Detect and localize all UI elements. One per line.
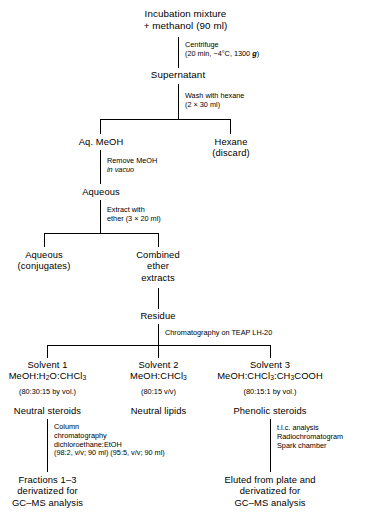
- solvent-1-formula-sub2: 3: [82, 375, 86, 382]
- node-fractions-derivatized: Fractions 1–3 derivatized for GC–MS anal…: [0, 474, 95, 508]
- split-drop-solvent-1: [47, 345, 48, 358]
- solvent-2-formula-pre: MeOH:CHCl: [130, 370, 183, 381]
- solvent-3-formula-post: COOH: [294, 370, 323, 381]
- node-incubation-mixture: Incubation mixture + methanol (90 ml): [0, 8, 371, 32]
- node-solvent-3-ratio-text: (80:15:1 by vol.): [244, 387, 297, 396]
- annotation-chromatography-teap: Chromatography on TEAP LH-20: [165, 329, 272, 338]
- annotation-tlc-line3: Spark chamber: [277, 442, 343, 451]
- node-phenolic-steroids: Phenolic steroids: [190, 405, 350, 416]
- node-solvent-1-name: Solvent 1: [0, 359, 95, 370]
- solvent-1-formula-pre: MeOH:H: [9, 370, 46, 381]
- annotation-centrifuge: Centrifuge (20 min, −4°C, 1300 g): [185, 41, 259, 59]
- annotation-chromatography-teap-text: Chromatography on TEAP LH-20: [165, 329, 272, 338]
- node-aqueous-label: Aqueous: [82, 186, 120, 197]
- split-bar-aqueous: [44, 233, 159, 234]
- split-drop-solvent-3: [270, 345, 271, 358]
- connector-start-to-supernatant: [178, 37, 179, 68]
- node-neutral-lipids-label: Neutral lipids: [131, 405, 187, 416]
- node-incubation-mixture-line2: + methanol (90 ml): [0, 20, 371, 32]
- node-hexane-line1: Hexane: [185, 136, 277, 147]
- node-aqueous: Aqueous: [55, 186, 147, 197]
- node-eluted-line2: derivatized for: [190, 485, 350, 496]
- annotation-tlc-analysis: t.l.c. analysis Radiochromatogram Spark …: [277, 424, 343, 450]
- node-solvent-2-ratio-text: (80:15 v/v): [141, 387, 176, 396]
- connector-supernatant-to-split: [178, 84, 179, 119]
- node-aqueous-conjugates-line2: (conjugates): [0, 260, 88, 271]
- node-combined-line3: extracts: [112, 272, 204, 283]
- node-hexane-line2: (discard): [185, 147, 277, 158]
- connector-aqueous-to-split: [100, 200, 101, 233]
- node-solvent-3-formula: MeOH:CHCl3:CH3COOH: [190, 370, 350, 381]
- annotation-centrifuge-line2-post: ): [257, 49, 259, 58]
- split-drop-solvent-2: [158, 345, 159, 358]
- node-aqueous-conjugates-line1: Aqueous: [0, 249, 88, 260]
- node-aq-meoh-label: Aq. MeOH: [79, 136, 124, 147]
- connector-combined-to-residue: [158, 288, 159, 309]
- node-combined-ether-extracts: Combined ether extracts: [112, 249, 204, 283]
- split-drop-aqueous-conjugates: [44, 233, 45, 247]
- annotation-remove-meoh: Remove MeOH in vacuo: [107, 157, 157, 175]
- node-combined-line2: ether: [112, 260, 204, 271]
- annotation-wash-hexane-line2: (2 × 30 ml): [185, 101, 244, 110]
- split-bar-solvents: [47, 345, 271, 346]
- node-eluted-derivatized: Eluted from plate and derivatized for GC…: [190, 474, 350, 508]
- node-aq-meoh: Aq. MeOH: [55, 136, 147, 147]
- node-eluted-line3: GC–MS analysis: [190, 497, 350, 508]
- solvent-3-formula-pre: MeOH:CHCl: [217, 370, 270, 381]
- connector-aqmeoh-to-aqueous: [100, 150, 101, 184]
- annotation-column-line4: (98:2, v/v; 90 ml) (95:5, v/v; 90 ml): [54, 449, 165, 458]
- node-combined-line1: Combined: [112, 249, 204, 260]
- node-solvent-1-ratio-text: (80:30:15 by vol.): [19, 387, 76, 396]
- node-supernatant-label: Supernatant: [151, 69, 205, 80]
- node-phenolic-steroids-label: Phenolic steroids: [233, 405, 306, 416]
- split-drop-hexane: [230, 119, 231, 134]
- split-bar-supernatant: [100, 119, 231, 120]
- solvent-1-formula-mid: O:CHCl: [50, 370, 83, 381]
- node-neutral-steroids: Neutral steroids: [0, 405, 95, 416]
- solvent-2-formula-sub: 3: [183, 375, 187, 382]
- connector-neutral-steroids-to-fractions: [47, 419, 48, 472]
- split-drop-aq-meoh: [100, 119, 101, 134]
- node-supernatant: Supernatant: [0, 69, 356, 81]
- split-drop-combined-ether: [158, 233, 159, 247]
- annotation-wash-hexane: Wash with hexane (2 × 30 ml): [185, 92, 244, 110]
- node-solvent-1-formula: MeOH:H2O:CHCl3: [0, 370, 95, 381]
- node-fractions-line1: Fractions 1–3: [0, 474, 95, 485]
- node-residue: Residue: [112, 310, 204, 321]
- annotation-in-vacuo: in vacuo: [107, 166, 157, 175]
- annotation-column-chromatography: Column chromatography dichloroethane:EtO…: [54, 423, 165, 458]
- node-solvent-1-ratio: (80:30:15 by vol.): [0, 387, 95, 396]
- node-solvent-1: Solvent 1 MeOH:H2O:CHCl3: [0, 359, 95, 382]
- node-fractions-line3: GC–MS analysis: [0, 497, 95, 508]
- node-eluted-line1: Eluted from plate and: [190, 474, 350, 485]
- connector-phenolic-steroids-to-eluted: [270, 419, 271, 472]
- solvent-3-formula-mid: :CH: [274, 370, 290, 381]
- node-neutral-steroids-label: Neutral steroids: [14, 405, 81, 416]
- annotation-extract-ether: Extract with ether (3 × 20 ml): [107, 206, 161, 224]
- flowchart-diagram: Incubation mixture + methanol (90 ml) Ce…: [0, 0, 371, 520]
- annotation-centrifuge-line2: (20 min, −4°C, 1300 g): [185, 50, 259, 59]
- node-fractions-line2: derivatized for: [0, 485, 95, 496]
- node-solvent-3: Solvent 3 MeOH:CHCl3:CH3COOH: [190, 359, 350, 382]
- node-residue-label: Residue: [140, 310, 175, 321]
- node-hexane-discard: Hexane (discard): [185, 136, 277, 159]
- node-incubation-mixture-line1: Incubation mixture: [0, 8, 371, 20]
- annotation-centrifuge-line2-pre: (20 min, −4°C, 1300: [185, 49, 252, 58]
- node-aqueous-conjugates: Aqueous (conjugates): [0, 249, 88, 272]
- node-solvent-3-ratio: (80:15:1 by vol.): [190, 387, 350, 396]
- node-solvent-3-name: Solvent 3: [190, 359, 350, 370]
- annotation-extract-ether-line2: ether (3 × 20 ml): [107, 215, 161, 224]
